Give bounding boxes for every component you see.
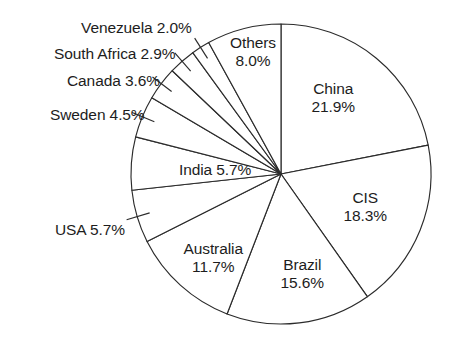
- slice-label-name-canada: Canada 3.6%: [67, 72, 160, 90]
- slice-label-value-others: 8.0%: [230, 52, 276, 70]
- slice-label-name-others: Others: [230, 34, 276, 52]
- slice-label-brazil: Brazil15.6%: [281, 256, 324, 291]
- slice-label-value-brazil: 15.6%: [281, 274, 324, 292]
- pie-chart-figure: China21.9%CIS18.3%Brazil15.6%Australia11…: [0, 0, 453, 349]
- slice-label-value-cis: 18.3%: [344, 207, 387, 225]
- slice-label-name-australia: Australia: [184, 240, 243, 258]
- slice-label-name-brazil: Brazil: [281, 256, 324, 274]
- slice-label-others: Others8.0%: [230, 34, 276, 69]
- slice-label-australia: Australia11.7%: [184, 240, 243, 275]
- slice-label-usa: USA 5.7%: [55, 221, 125, 239]
- slice-label-value-australia: 11.7%: [184, 258, 243, 276]
- slice-label-china: China21.9%: [312, 80, 355, 115]
- slice-label-name-china: China: [312, 80, 355, 98]
- slice-label-south-africa: South Africa 2.9%: [54, 45, 176, 63]
- slice-label-canada: Canada 3.6%: [67, 72, 160, 90]
- slice-label-name-usa: USA 5.7%: [55, 221, 125, 239]
- slice-label-name-india: India 5.7%: [179, 161, 251, 179]
- slice-label-cis: CIS18.3%: [344, 189, 387, 224]
- slice-label-india: India 5.7%: [179, 161, 251, 179]
- slice-label-name-south-africa: South Africa 2.9%: [54, 45, 176, 63]
- slice-label-name-sweden: Sweden 4.5%: [50, 106, 145, 124]
- slice-label-sweden: Sweden 4.5%: [50, 106, 145, 124]
- slice-label-name-cis: CIS: [344, 189, 387, 207]
- slice-label-value-china: 21.9%: [312, 98, 355, 116]
- slice-label-venezuela: Venezuela 2.0%: [81, 19, 192, 37]
- slice-label-name-venezuela: Venezuela 2.0%: [81, 19, 192, 37]
